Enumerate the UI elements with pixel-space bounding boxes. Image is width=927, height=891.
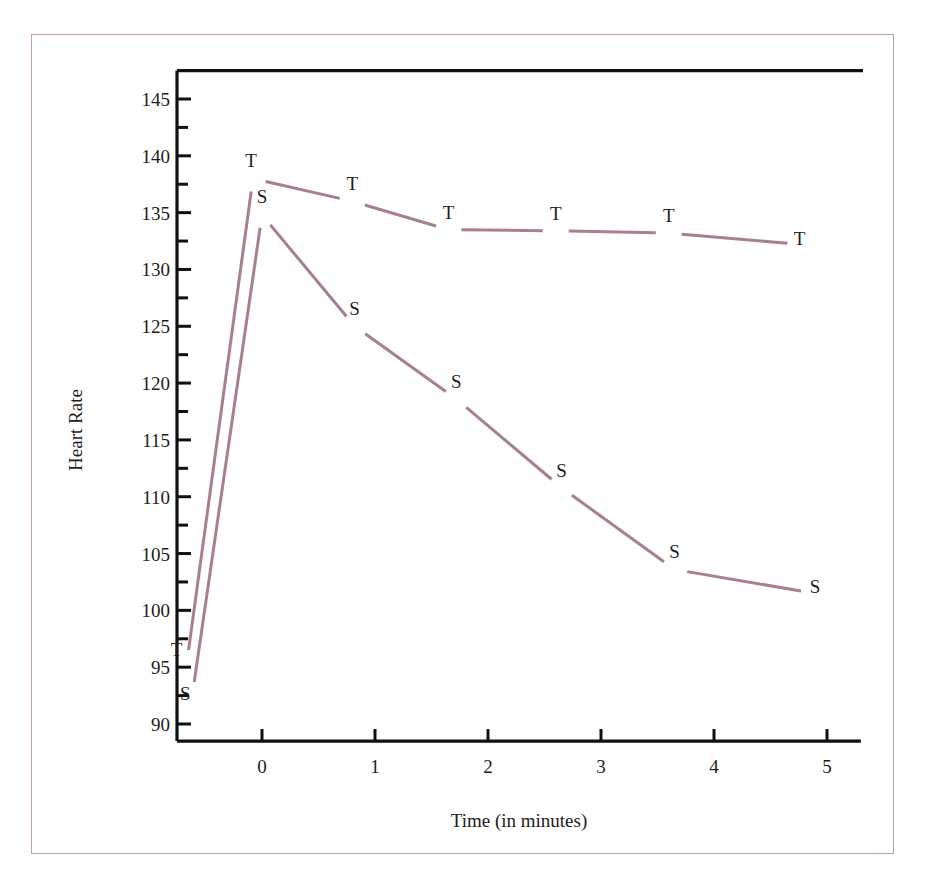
figure-page: 9095100105110115120125130135140145012345… [0, 0, 927, 891]
series-S-segment [687, 572, 801, 591]
y-tick-label: 110 [142, 487, 170, 508]
y-tick-label: 120 [142, 373, 171, 394]
point-label-S: S [810, 576, 821, 597]
series-T-segment [189, 191, 252, 650]
point-label-S: S [349, 298, 360, 319]
series-layer [189, 181, 801, 682]
chart-svg: 9095100105110115120125130135140145012345… [0, 0, 927, 891]
point-label-S: S [180, 683, 191, 704]
axis-layer: 9095100105110115120125130135140145012345 [142, 71, 864, 777]
point-label-T: T [794, 228, 806, 249]
y-tick-label: 145 [142, 89, 171, 110]
x-axis-title: Time (in minutes) [451, 810, 588, 832]
y-tick-label: 90 [151, 714, 170, 735]
x-tick-label: 5 [822, 756, 832, 777]
y-tick-label: 100 [142, 600, 171, 621]
point-label-T: T [663, 205, 675, 226]
heart-rate-line-chart: 9095100105110115120125130135140145012345… [0, 0, 927, 891]
point-label-S: S [669, 541, 680, 562]
point-label-S: S [556, 460, 567, 481]
series-S-segment [194, 228, 260, 682]
x-tick-label: 2 [483, 756, 493, 777]
point-label-layer: TTTTTTTSSSSSSS [171, 150, 821, 704]
x-tick-label: 1 [370, 756, 380, 777]
y-axis-title: Heart Rate [65, 389, 86, 471]
point-label-T: T [550, 203, 562, 224]
x-tick-label: 4 [709, 756, 719, 777]
y-tick-label: 125 [142, 316, 171, 337]
series-T-segment [682, 234, 788, 243]
y-tick-label: 140 [142, 146, 171, 167]
series-T-segment [266, 181, 340, 198]
series-S-segment [365, 334, 446, 392]
point-label-T: T [443, 202, 455, 223]
series-T-segment [365, 205, 436, 226]
series-S-segment [466, 407, 551, 479]
y-tick-label: 130 [142, 259, 171, 280]
y-tick-label: 115 [142, 430, 170, 451]
x-tick-label: 0 [257, 756, 267, 777]
point-label-T: T [347, 173, 359, 194]
point-label-S: S [257, 186, 268, 207]
point-label-T: T [245, 150, 257, 171]
y-tick-label: 95 [151, 657, 170, 678]
series-T-segment [461, 230, 542, 231]
series-T-segment [569, 231, 656, 233]
series-S-segment [270, 225, 346, 316]
y-tick-label: 135 [142, 203, 171, 224]
y-tick-label: 105 [142, 544, 171, 565]
point-label-T: T [171, 639, 183, 660]
series-S-segment [572, 495, 664, 562]
point-label-S: S [451, 371, 462, 392]
x-tick-label: 3 [596, 756, 606, 777]
